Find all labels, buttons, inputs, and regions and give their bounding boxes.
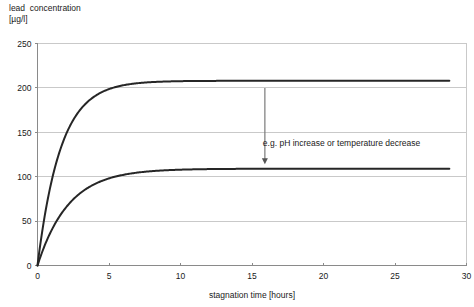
y-tick-label: 0 — [27, 261, 32, 271]
chart-figure: lead concentration[µg/l] 050100150200250… — [0, 0, 474, 307]
x-axis-title: stagnation time [hours] — [209, 290, 295, 300]
x-tick-label: 30 — [462, 271, 472, 281]
data-curve — [38, 169, 450, 266]
data-curve — [38, 81, 450, 266]
x-tick-label: 15 — [247, 271, 257, 281]
y-tick-labels-group: 050100150200250 — [17, 39, 31, 271]
annotation-label: e.g. pH increase or temperature decrease — [263, 138, 421, 148]
data-curves-group — [38, 81, 450, 266]
x-tick-label: 5 — [107, 271, 112, 281]
y-tick-label: 200 — [17, 83, 31, 93]
annotations-group: e.g. pH increase or temperature decrease — [262, 88, 421, 164]
x-tick-label: 20 — [319, 271, 329, 281]
x-tick-label: 0 — [35, 271, 40, 281]
y-tick-label: 100 — [17, 172, 31, 182]
y-tick-label: 50 — [22, 216, 32, 226]
gridlines-group — [38, 44, 467, 222]
tick-marks-group — [35, 44, 467, 266]
y-tick-label: 150 — [17, 128, 31, 138]
plot-frame — [38, 44, 467, 266]
x-tick-labels-group: 051015202530 — [35, 271, 471, 281]
y-tick-label: 250 — [17, 39, 31, 49]
annotation-arrow-head — [262, 158, 268, 164]
x-tick-label: 25 — [390, 271, 400, 281]
chart-plot-area: 050100150200250 051015202530 e.g. pH inc… — [0, 0, 474, 307]
x-tick-label: 10 — [176, 271, 186, 281]
